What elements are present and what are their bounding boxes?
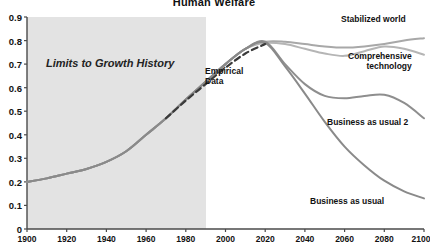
annotation-comprehensive-technology-line2: technology: [348, 61, 412, 71]
x-tick-2040: 2040: [295, 234, 314, 244]
x-tick-2000: 2000: [216, 234, 235, 244]
x-tick-1980: 1980: [176, 234, 195, 244]
annotation-empirical-data: Empirical Data: [205, 66, 243, 86]
x-tick-1900: 1900: [18, 234, 37, 244]
annotation-comprehensive-technology: Comprehensive technology: [348, 51, 412, 71]
x-tick-1920: 1920: [57, 234, 76, 244]
x-tick-2020: 2020: [256, 234, 275, 244]
x-tick-1960: 1960: [137, 234, 156, 244]
x-tick-2080: 2080: [375, 234, 394, 244]
x-tick-2060: 2060: [335, 234, 354, 244]
annotation-business-as-usual: Business as usual: [310, 196, 384, 206]
x-tick-1940: 1940: [97, 234, 116, 244]
annotation-empirical-data-line2: Data: [205, 76, 243, 86]
annotation-business-as-usual-2: Business as usual 2: [327, 117, 408, 127]
annotation-limits-to-growth-history: Limits to Growth History: [46, 58, 174, 68]
annotation-comprehensive-technology-line1: Comprehensive: [348, 51, 412, 61]
annotation-stabilized-world: Stabilized world: [341, 14, 406, 24]
annotation-empirical-data-line1: Empirical: [205, 66, 243, 76]
x-tick-2100: 2100: [412, 234, 430, 244]
